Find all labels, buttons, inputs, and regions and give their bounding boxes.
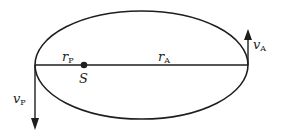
- sun-focus-dot: [81, 62, 88, 69]
- sun-label: S: [79, 71, 88, 86]
- orbit-svg: rP S rA vA vP: [0, 0, 281, 138]
- velocity-aphelion-arrowhead-icon: [244, 29, 252, 40]
- r-perihelion-label: rP: [62, 49, 74, 65]
- v-aphelion-label: vA: [253, 37, 266, 53]
- velocity-perihelion-arrowhead-icon: [31, 118, 39, 130]
- orbit-diagram: rP S rA vA vP: [0, 0, 281, 138]
- r-aphelion-label: rA: [158, 49, 170, 65]
- v-perihelion-label: vP: [13, 91, 26, 107]
